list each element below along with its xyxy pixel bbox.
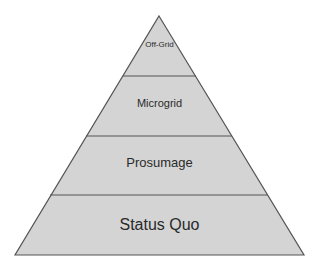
level-statusquo-label: Status Quo (0, 216, 319, 234)
level-microgrid-label: Microgrid (0, 97, 319, 109)
level-prosumage-label: Prosumage (0, 155, 319, 170)
level-offgrid-label: Off-Grid (0, 40, 319, 49)
